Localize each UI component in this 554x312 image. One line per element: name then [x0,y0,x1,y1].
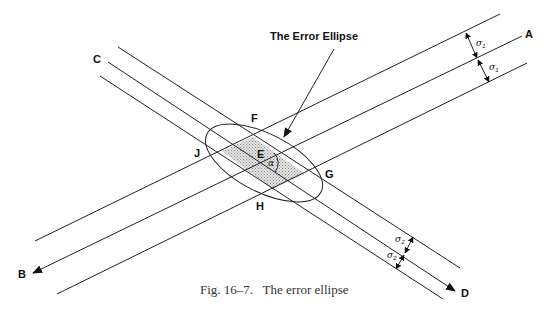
point-label-a: A [525,28,533,40]
point-label-g: G [325,168,334,180]
sigma2-upper-label: σ2 [395,234,405,245]
point-label-h: H [256,200,264,212]
point-label-j: J [194,147,200,159]
line-ab-lower [57,63,527,294]
error-ellipse-title: The Error Ellipse [270,30,358,42]
angle-alpha-label: α [268,158,274,168]
line-ab-main [33,36,522,273]
point-label-d: D [461,287,469,299]
figure-caption: Fig. 16–7. The error ellipse [200,282,349,297]
sigma1-dim-lower [478,60,489,82]
sigma1-upper-label: σ1 [476,38,486,49]
error-ellipse-diagram: α The Error Ellipse σ1 σ1 σ2 σ2 A B C D … [0,0,554,312]
point-label-e: E [257,148,264,160]
sigma2-dim-lower [396,255,404,269]
ellipse-pointer-arrow [284,49,334,137]
point-label-c: C [93,53,101,65]
line-cd-lower [100,76,443,299]
point-label-b: B [18,268,26,280]
line-ab-upper [35,14,500,241]
line-cd-upper [118,47,460,268]
sigma1-lower-label: σ1 [489,62,499,73]
sigma2-dim-upper [405,237,413,253]
point-label-f: F [251,112,258,124]
